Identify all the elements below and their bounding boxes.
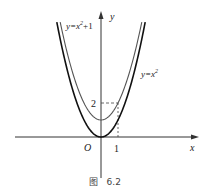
parabola-figure: y x O 1 2 y=x2+1 y=x2 图 6.2	[0, 0, 209, 191]
x-tick-label-1: 1	[114, 143, 119, 154]
x-axis-arrow-icon	[191, 135, 199, 140]
label-y-x2-plus-1: y=x2+1	[65, 20, 93, 31]
origin-label: O	[84, 142, 91, 153]
figure-caption: 图 6.2	[89, 177, 121, 187]
y-axis-arrow-icon	[99, 11, 104, 19]
label-y-x2: y=x2	[140, 68, 158, 79]
y-axis	[99, 11, 104, 178]
x-axis-label: x	[189, 142, 195, 153]
y-axis-label: y	[109, 11, 115, 22]
y-tick-label-2: 2	[91, 98, 96, 109]
